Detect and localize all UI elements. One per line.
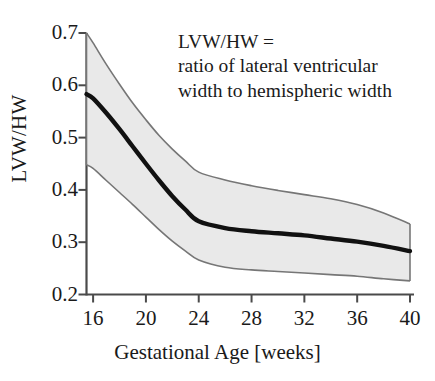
annotation-line-1: LVW/HW =	[178, 30, 392, 54]
y-axis-title: LVW/HW	[7, 84, 32, 194]
x-tick-label: 28	[232, 308, 272, 329]
x-axis-title: Gestational Age [weeks]	[0, 340, 435, 365]
chart-annotation: LVW/HW = ratio of lateral ventricular wi…	[178, 30, 392, 103]
annotation-line-3: width to hemispheric width	[178, 79, 392, 103]
x-tick-label: 24	[179, 308, 219, 329]
y-tick-label: 0.2	[30, 284, 78, 305]
annotation-line-2: ratio of lateral ventricular	[178, 54, 392, 78]
chart-figure: LVW/HW 0.20.30.40.50.60.7 16202428323640…	[0, 0, 435, 381]
x-tick-label: 20	[126, 308, 166, 329]
x-tick-label: 36	[337, 308, 377, 329]
y-tick-label: 0.4	[30, 179, 78, 200]
x-tick-label: 32	[284, 308, 324, 329]
y-axis-ticks	[79, 33, 87, 295]
y-tick-label: 0.6	[30, 74, 78, 95]
x-tick-label: 16	[73, 308, 113, 329]
y-tick-label: 0.7	[30, 22, 78, 43]
x-tick-label: 40	[390, 308, 430, 329]
y-tick-label: 0.5	[30, 127, 78, 148]
y-tick-label: 0.3	[30, 231, 78, 252]
x-axis-ticks	[93, 295, 410, 303]
